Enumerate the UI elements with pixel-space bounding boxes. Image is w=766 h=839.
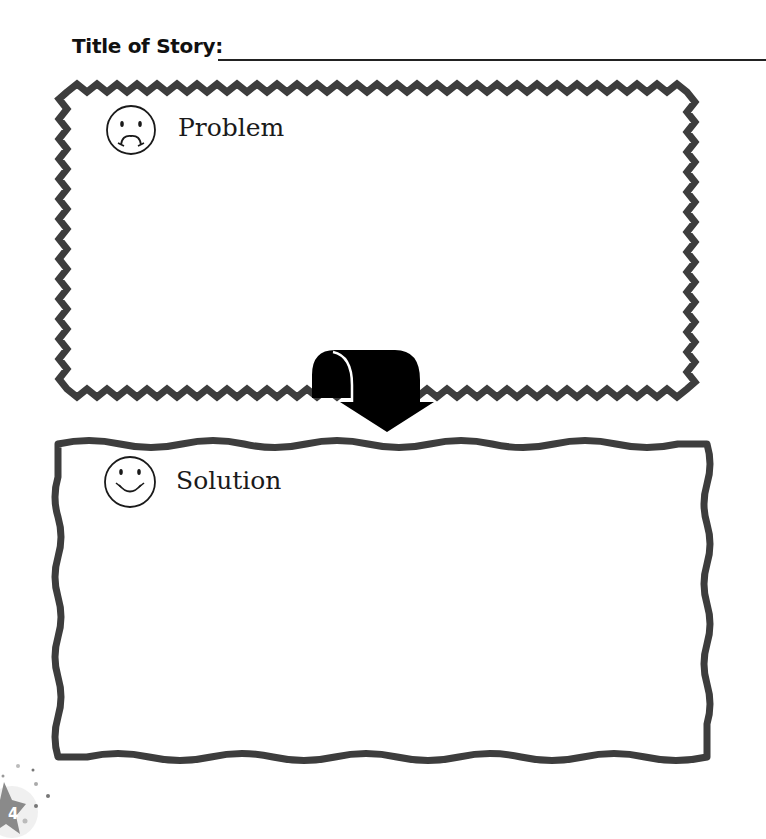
page-number: 4	[8, 805, 18, 823]
sad-face-icon	[107, 106, 155, 154]
problem-label: Problem	[178, 113, 284, 142]
solution-label: Solution	[176, 466, 281, 495]
curved-down-arrow-icon	[312, 350, 434, 432]
page-number-badge: 4	[0, 790, 60, 839]
happy-face-icon	[105, 457, 155, 507]
